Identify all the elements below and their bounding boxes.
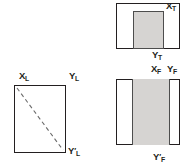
label-x-l: XL	[19, 71, 30, 81]
left-view-dashed-diagonal	[14, 85, 66, 153]
diagram-canvas: XT YT XL YL Y′L XF YF Y′F	[0, 0, 195, 166]
label-x-f: XF	[151, 64, 162, 74]
label-y-prime-f: Y′F	[153, 152, 165, 162]
label-y-t: YT	[152, 50, 163, 60]
front-view	[116, 79, 180, 145]
front-view-shaded-band	[132, 79, 170, 145]
top-view-shaded-block	[133, 11, 164, 49]
label-x-t: XT	[166, 1, 177, 11]
left-view	[14, 85, 66, 153]
label-y-prime-l: Y′L	[68, 146, 80, 156]
label-y-f: YF	[167, 64, 178, 74]
label-y-l: YL	[69, 71, 80, 81]
